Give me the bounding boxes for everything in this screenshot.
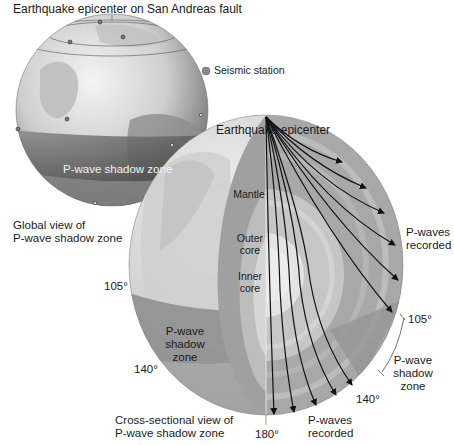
angle-140-right: 140° [356, 393, 380, 406]
angle-140-left: 140° [134, 363, 158, 376]
legend-seismic-station: Seismic station [214, 64, 285, 77]
small-globe-shadow-zone-label: P-wave shadow zone [63, 163, 172, 176]
top-title: Earthquake epicenter on San Andreas faul… [13, 3, 242, 16]
mantle-label: Mantle [227, 188, 271, 200]
angle-105-left: 105° [104, 280, 128, 293]
angle-180: 180° [255, 428, 279, 441]
angle-105-right: 105° [408, 313, 432, 326]
seismic-station-icon [202, 67, 210, 75]
epicenter-label: Earthquake epicenter [216, 124, 330, 137]
